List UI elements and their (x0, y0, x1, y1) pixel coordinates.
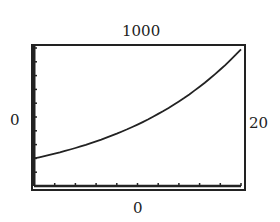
plot-window (0, 0, 280, 222)
window-frame (32, 45, 245, 190)
data-curve (34, 49, 241, 158)
axes (34, 46, 241, 186)
